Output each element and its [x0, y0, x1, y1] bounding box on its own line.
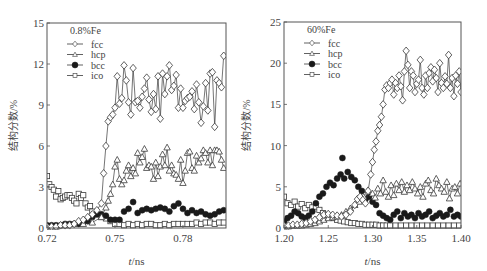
legend-marker-fcc	[310, 40, 315, 46]
ico-point	[393, 223, 398, 228]
plot-area	[44, 52, 227, 230]
x-tick-label: 1.35	[407, 232, 427, 244]
legend-label-fcc: fcc	[328, 38, 341, 49]
legend-label-hcp: hcp	[328, 48, 342, 59]
bcc-point	[331, 182, 337, 188]
x-axis-label: t/ns	[365, 255, 381, 267]
fcc-point	[162, 90, 168, 98]
bcc-point	[447, 207, 453, 213]
chart-title: 60%Fe	[307, 24, 336, 35]
bcc-point	[339, 155, 345, 161]
legend: fcchcpbccico	[304, 38, 342, 81]
ico-point	[435, 223, 440, 228]
ico-point	[404, 223, 409, 228]
hcp-point	[457, 180, 463, 186]
fcc-point	[103, 142, 109, 150]
fcc-point	[368, 171, 374, 179]
plot-frame	[284, 22, 461, 228]
hcp-point	[168, 162, 174, 168]
ico-point	[388, 223, 393, 228]
series-hcp	[44, 144, 227, 229]
y-tick-label: 25	[270, 16, 282, 28]
hcp-point	[446, 195, 452, 201]
ico-point	[87, 204, 92, 209]
fcc-point	[371, 146, 377, 154]
y-tick-label: 5	[276, 181, 282, 193]
hcp-point	[162, 162, 168, 168]
hcp-point	[103, 204, 109, 210]
hcp-point	[425, 177, 431, 183]
fcc-point	[380, 101, 386, 109]
fcc-point	[166, 62, 172, 70]
ico-point	[441, 223, 446, 228]
ico-point	[56, 189, 61, 194]
fcc-point	[445, 51, 451, 59]
bcc-point	[126, 206, 132, 212]
bcc-point	[313, 200, 319, 206]
hcp-point	[105, 197, 111, 203]
legend-marker-ico	[310, 73, 314, 77]
hcp-point	[433, 175, 439, 181]
ico-point	[446, 223, 451, 228]
y-tick-label: 6	[39, 140, 45, 152]
ico-point	[430, 223, 435, 228]
x-tick-label: 1.30	[363, 232, 383, 244]
legend-label-bcc: bcc	[91, 60, 105, 71]
fcc-point	[391, 91, 397, 99]
legend-label-hcp: hcp	[91, 49, 105, 60]
bcc-point	[373, 202, 379, 208]
hcp-point	[182, 167, 188, 173]
x-tick-label: 0.72	[37, 232, 56, 244]
figure: 036912150.720.750.78t/ns结构分数/%0.8%Fefcch…	[0, 0, 487, 271]
x-axis-label: t/ns	[129, 255, 145, 267]
hcp-point	[137, 159, 143, 165]
bcc-point	[117, 217, 123, 223]
x-label-unit: /ns	[132, 255, 145, 267]
ico-point	[81, 193, 86, 198]
bcc-point	[320, 190, 326, 196]
fcc-point	[406, 84, 412, 92]
x-tick-label: 0.75	[105, 232, 125, 244]
hcp-point	[193, 152, 199, 158]
fcc-point	[378, 113, 384, 121]
hcp-point	[141, 146, 147, 152]
chart-right-60pct-fe: 05101520251.201.251.301.351.40t/ns结构分数/%…	[240, 16, 471, 267]
y-tick-label: 9	[39, 99, 45, 111]
fcc-point	[401, 68, 407, 76]
x-tick-label: 1.25	[319, 232, 339, 244]
fcc-point	[143, 74, 149, 82]
fcc-point	[177, 85, 183, 93]
y-tick-label: 15	[33, 17, 45, 29]
hcp-point	[153, 159, 159, 165]
fcc-point	[146, 96, 152, 104]
hcp-point	[114, 156, 120, 162]
figure-canvas: 036912150.720.750.78t/ns结构分数/%0.8%Fefcch…	[0, 0, 487, 271]
bcc-point	[352, 177, 358, 183]
fcc-point	[100, 170, 106, 178]
fcc-point	[369, 158, 375, 166]
y-tick-label: 12	[33, 58, 44, 70]
legend-label-bcc: bcc	[328, 59, 342, 70]
hcp-point	[166, 167, 172, 173]
hcp-point	[396, 187, 402, 193]
hcp-point	[388, 182, 394, 188]
hcp-point	[417, 184, 423, 190]
ico-point	[398, 223, 403, 228]
y-axis-label: 结构分数/%	[7, 100, 19, 151]
y-axis-label: 结构分数/%	[240, 99, 252, 150]
hcp-point	[393, 180, 399, 186]
legend-marker-bcc	[72, 62, 78, 68]
fcc-point	[123, 77, 129, 85]
hcp-point	[134, 150, 140, 156]
fcc-point	[399, 96, 405, 104]
hcp-point	[401, 189, 407, 195]
fcc-point	[121, 62, 127, 70]
fcc-point	[114, 73, 120, 81]
fcc-point	[128, 111, 134, 119]
fcc-point	[421, 91, 427, 99]
hcp-point	[399, 179, 405, 185]
y-tick-label: 20	[270, 57, 282, 69]
bcc-point	[130, 199, 136, 205]
fcc-point	[125, 98, 131, 106]
y-tick-label: 15	[270, 98, 282, 110]
